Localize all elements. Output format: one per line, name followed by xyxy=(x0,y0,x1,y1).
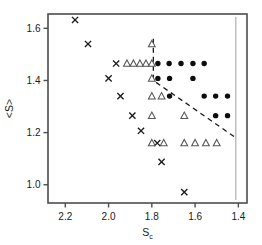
marker-filled-circle xyxy=(201,93,206,98)
marker-open-triangle xyxy=(124,60,131,66)
marker-cross xyxy=(72,17,78,23)
marker-filled-circle xyxy=(201,61,206,66)
y-axis-title: <S> xyxy=(3,99,15,118)
marker-cross xyxy=(117,93,123,99)
marker-cross xyxy=(85,41,91,47)
marker-open-triangle xyxy=(181,139,188,145)
y-tick-label: 1.4 xyxy=(27,75,41,86)
marker-open-triangle xyxy=(158,93,165,99)
x-tick-label: 1.4 xyxy=(231,211,245,222)
x-tick-label: 1.6 xyxy=(188,211,202,222)
marker-filled-circle xyxy=(190,61,195,66)
y-tick-label: 1.6 xyxy=(27,23,41,34)
marker-filled-circle xyxy=(225,113,230,118)
marker-filled-circle xyxy=(225,93,230,98)
marker-filled-circle xyxy=(213,113,218,118)
marker-cross xyxy=(181,189,187,195)
series-cross xyxy=(72,17,187,195)
marker-filled-circle xyxy=(155,61,160,66)
plot-canvas: 2.22.01.81.61.41.61.41.21.0Sc<S> xyxy=(0,0,262,245)
marker-cross xyxy=(158,159,164,165)
marker-open-triangle xyxy=(148,40,155,46)
marker-open-triangle xyxy=(202,139,209,145)
marker-cross xyxy=(138,128,144,134)
marker-open-triangle xyxy=(148,60,155,66)
marker-open-triangle xyxy=(148,93,155,99)
marker-open-triangle xyxy=(160,139,167,145)
marker-open-triangle xyxy=(213,139,220,145)
x-tick-label: 2.2 xyxy=(58,211,72,222)
marker-filled-circle xyxy=(213,93,218,98)
marker-open-triangle xyxy=(181,112,188,118)
marker-cross xyxy=(129,113,135,119)
marker-open-triangle xyxy=(130,60,137,66)
marker-filled-circle xyxy=(166,61,171,66)
marker-open-triangle xyxy=(148,112,155,118)
y-tick-label: 1.2 xyxy=(27,127,41,138)
marker-cross xyxy=(113,60,119,66)
marker-filled-circle xyxy=(167,76,172,81)
marker-open-triangle xyxy=(137,60,144,66)
marker-filled-circle xyxy=(178,61,183,66)
marker-filled-circle xyxy=(167,93,172,98)
plot-frame xyxy=(48,14,247,203)
marker-cross xyxy=(105,75,111,81)
y-tick-label: 1.0 xyxy=(27,179,41,190)
marker-filled-circle xyxy=(155,76,160,81)
x-tick-label: 2.0 xyxy=(102,211,116,222)
marker-filled-circle xyxy=(190,76,195,81)
phase-boundary-dashed xyxy=(153,39,236,139)
marker-open-triangle xyxy=(148,75,155,81)
x-tick-label: 1.8 xyxy=(145,211,159,222)
x-axis-title: Sc xyxy=(142,226,153,240)
scatter-plot-figure: 2.22.01.81.61.41.61.41.21.0Sc<S> xyxy=(0,0,262,245)
marker-open-triangle xyxy=(192,139,199,145)
